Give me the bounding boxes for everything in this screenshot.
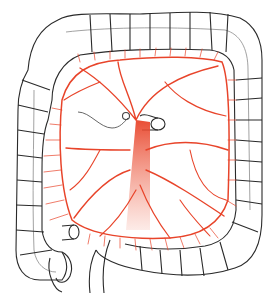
mesenteric-arteries bbox=[44, 48, 236, 250]
anatomical-illustration bbox=[0, 0, 272, 293]
colon-arterial-diagram bbox=[0, 0, 272, 293]
